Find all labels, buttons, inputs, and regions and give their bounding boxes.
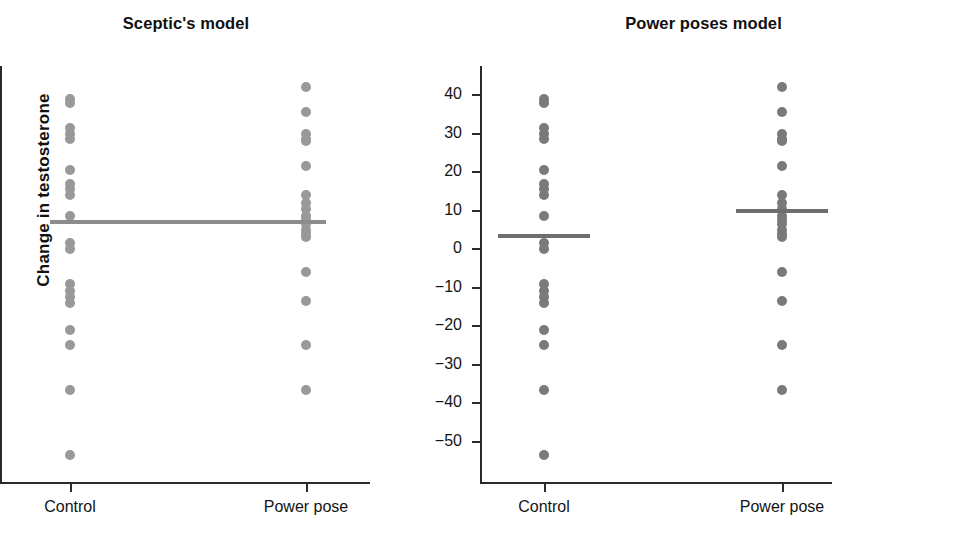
x-axis-tick (544, 484, 546, 492)
data-point (65, 244, 75, 254)
data-point (539, 134, 549, 144)
x-axis-tick-label: Power pose (702, 498, 862, 516)
x-axis-line (0, 482, 370, 484)
y-axis-tick (472, 402, 480, 404)
y-axis-line (480, 66, 482, 482)
data-point (777, 82, 787, 92)
data-point (65, 298, 75, 308)
data-point (777, 385, 787, 395)
data-point (777, 340, 787, 350)
data-point (539, 385, 549, 395)
data-point (301, 267, 311, 277)
y-axis-tick-label: 20 (390, 162, 462, 180)
figure-container: Change in testosterone Sceptic's model 4… (0, 0, 963, 551)
data-point (539, 325, 549, 335)
x-axis-tick (782, 484, 784, 492)
mean-line (50, 220, 326, 224)
y-axis-line (0, 66, 2, 482)
y-axis-tick (472, 287, 480, 289)
data-point (539, 450, 549, 460)
y-axis-tick-label: 10 (390, 201, 462, 219)
y-axis-tick (472, 210, 480, 212)
y-axis-tick (472, 133, 480, 135)
y-axis-tick-label: −30 (390, 355, 462, 373)
data-point (539, 340, 549, 350)
data-point (301, 82, 311, 92)
y-axis-tick-label: −10 (390, 278, 462, 296)
mean-line (498, 234, 590, 238)
y-axis-tick-label: −20 (390, 316, 462, 334)
data-point (777, 267, 787, 277)
x-axis-tick-label: Control (464, 498, 624, 516)
y-axis-tick-label: 40 (390, 85, 462, 103)
data-point (301, 296, 311, 306)
data-point (301, 161, 311, 171)
data-point (777, 107, 787, 117)
data-point (539, 190, 549, 200)
panel-title-power-poses: Power poses model (462, 14, 945, 33)
x-axis-tick (70, 484, 72, 492)
data-point (65, 340, 75, 350)
x-axis-line (480, 482, 832, 484)
data-point (539, 98, 549, 108)
data-point (539, 165, 549, 175)
y-axis-tick-label: −50 (390, 432, 462, 450)
data-point (301, 136, 311, 146)
x-axis-tick-label: Power pose (226, 498, 386, 516)
data-point (777, 161, 787, 171)
y-axis-tick (472, 248, 480, 250)
y-axis-tick (472, 171, 480, 173)
data-point (539, 244, 549, 254)
data-point (65, 98, 75, 108)
data-point (301, 107, 311, 117)
data-point (539, 298, 549, 308)
y-axis-tick-label: −40 (390, 393, 462, 411)
mean-line (736, 209, 828, 213)
x-axis-tick-label: Control (0, 498, 150, 516)
data-point (65, 450, 75, 460)
panel-title-sceptic: Sceptic's model (0, 14, 436, 33)
data-point (777, 296, 787, 306)
x-axis-tick (306, 484, 308, 492)
data-point (539, 211, 549, 221)
data-point (65, 385, 75, 395)
panel-power-poses: Power poses model 403020100−10−20−30−40−… (480, 0, 963, 551)
y-axis-tick (472, 325, 480, 327)
data-point (65, 190, 75, 200)
data-point (777, 136, 787, 146)
y-axis-tick (472, 94, 480, 96)
panel-sceptic: Sceptic's model 403020100−10−20−30−40−50… (0, 0, 500, 551)
data-point (65, 325, 75, 335)
data-point (777, 232, 787, 242)
data-point (301, 232, 311, 242)
data-point (301, 340, 311, 350)
y-axis-tick (472, 441, 480, 443)
data-point (301, 385, 311, 395)
data-point (65, 134, 75, 144)
y-axis-tick-label: 30 (390, 124, 462, 142)
y-axis-tick (472, 364, 480, 366)
data-point (65, 165, 75, 175)
y-axis-tick-label: 0 (390, 239, 462, 257)
